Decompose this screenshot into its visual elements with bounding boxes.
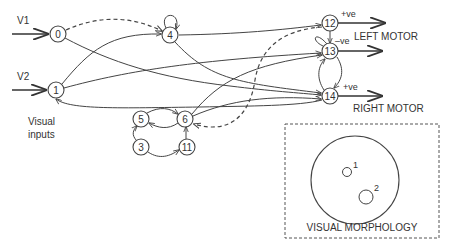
edges bbox=[56, 15, 342, 156]
edge-3-5 bbox=[133, 126, 137, 141]
input-v2: V2 bbox=[12, 71, 46, 90]
sign-14: +ve bbox=[343, 82, 358, 92]
svg-text:6: 6 bbox=[182, 114, 188, 125]
node-5: 5 bbox=[133, 111, 149, 127]
edge-14-13 bbox=[319, 59, 325, 90]
edge-3-11 bbox=[148, 150, 179, 156]
output-12: +ve bbox=[338, 9, 385, 23]
node-1: 1 bbox=[48, 82, 64, 98]
edge-4-12 bbox=[179, 25, 321, 35]
sensor-2 bbox=[359, 190, 373, 204]
svg-text:0: 0 bbox=[55, 29, 61, 40]
input-v1: V1 bbox=[12, 15, 48, 34]
node-4: 4 bbox=[162, 27, 178, 43]
visual-inputs-caption-1: Visual bbox=[28, 116, 55, 127]
node-3: 3 bbox=[133, 139, 149, 155]
svg-text:1: 1 bbox=[53, 85, 59, 96]
svg-text:12: 12 bbox=[324, 18, 336, 29]
edge-5-6 bbox=[147, 109, 178, 114]
edge-6-5 bbox=[149, 123, 178, 128]
node-0: 0 bbox=[50, 26, 66, 42]
network-diagram: V1 V2 Visual inputs 0 1 4 5 6 3 11 12 13… bbox=[0, 0, 450, 252]
svg-text:11: 11 bbox=[182, 142, 193, 153]
node-11: 11 bbox=[179, 139, 195, 155]
sensor-1-label: 1 bbox=[353, 160, 358, 170]
svg-text:4: 4 bbox=[167, 30, 173, 41]
edge-12-6 bbox=[194, 27, 322, 127]
edge-4-14 bbox=[175, 42, 321, 93]
svg-text:14: 14 bbox=[324, 91, 336, 102]
edge-13-14 bbox=[334, 57, 342, 88]
edge-14-1 bbox=[56, 99, 322, 108]
edge-0-14 bbox=[65, 38, 321, 95]
node-6: 6 bbox=[177, 111, 193, 127]
visual-morphology-panel: 1 2 VISUAL MORPHOLOGY bbox=[285, 124, 439, 238]
sign-12: +ve bbox=[341, 9, 356, 19]
node-14: 14 bbox=[322, 88, 338, 104]
input-v1-label: V1 bbox=[17, 15, 30, 26]
output-14: +ve bbox=[338, 82, 382, 96]
input-v2-label: V2 bbox=[17, 71, 30, 82]
svg-text:13: 13 bbox=[324, 46, 336, 57]
left-motor-label: LEFT MOTOR bbox=[354, 31, 418, 42]
edge-0-4 bbox=[66, 19, 162, 31]
morphology-title: VISUAL MORPHOLOGY bbox=[307, 222, 418, 233]
sign-13: –ve bbox=[335, 36, 350, 46]
svg-text:3: 3 bbox=[138, 142, 144, 153]
body-circle bbox=[311, 136, 399, 224]
svg-text:5: 5 bbox=[138, 114, 144, 125]
sensor-1 bbox=[343, 168, 352, 177]
visual-inputs-caption-2: inputs bbox=[28, 129, 55, 140]
sensor-2-label: 2 bbox=[374, 183, 379, 193]
right-motor-label: RIGHT MOTOR bbox=[353, 103, 424, 114]
node-12: 12 bbox=[322, 15, 338, 31]
